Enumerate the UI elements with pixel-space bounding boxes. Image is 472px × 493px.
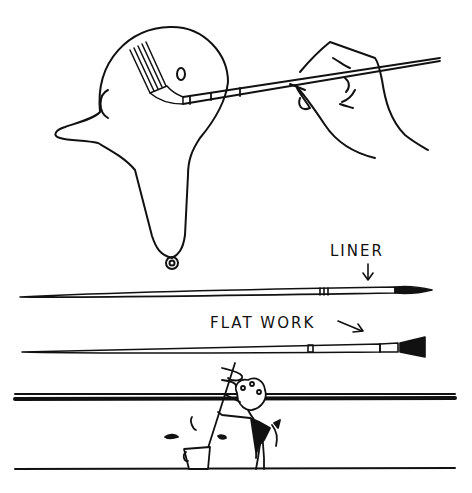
stirring-figure [165, 363, 280, 469]
ground-lines [15, 394, 455, 469]
illustration: LINER FLAT WORK [0, 0, 472, 493]
liner-brush [20, 264, 432, 297]
liner-label: LINER [330, 242, 384, 260]
flat-work-label: FLAT WORK [210, 314, 315, 332]
brush-handle [183, 58, 440, 104]
line-art [0, 0, 472, 493]
hand-figure [290, 42, 428, 158]
brush-on-head [130, 42, 183, 104]
